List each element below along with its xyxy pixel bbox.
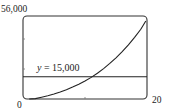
data-curve (29, 21, 146, 99)
plot-area (0, 0, 169, 111)
tick-marks (23, 39, 85, 99)
plot-frame (23, 16, 147, 99)
